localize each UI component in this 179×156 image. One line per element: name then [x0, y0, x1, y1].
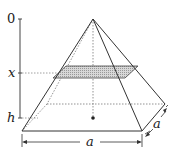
axis-label-zero: 0: [7, 11, 15, 26]
axis-label-h: h: [7, 110, 15, 125]
cross-section: [53, 66, 138, 78]
height-axis: [18, 19, 22, 118]
base-center-dot: [91, 116, 95, 120]
pyramid-diagram: 0 x h a a: [0, 0, 179, 156]
base-side-label: a: [153, 116, 161, 131]
axis-label-x: x: [8, 65, 16, 80]
base-front-label: a: [86, 134, 94, 149]
front-dimension: [22, 134, 142, 147]
